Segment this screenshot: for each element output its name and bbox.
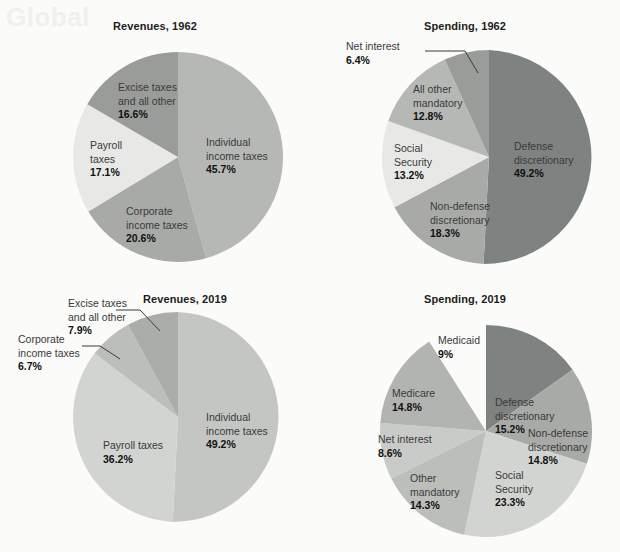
- pie-label-value: 36.2%: [103, 453, 133, 465]
- pie-label-value: 7.9%: [68, 324, 92, 336]
- pie-label-value: 49.2%: [206, 438, 236, 450]
- pie-label-name: SocialSecurity: [394, 142, 432, 169]
- pie-label-name: Medicare: [392, 387, 435, 401]
- chart-panel-revenues-2019: Revenues, 2019 Individualincome taxes 49…: [0, 276, 310, 552]
- pie-label-value: 16.6%: [118, 108, 148, 120]
- pie-label-value: 14.8%: [528, 454, 558, 466]
- pie-label-individual-income-taxes: Individualincome taxes 49.2%: [206, 411, 268, 452]
- pie-spending-2019: [310, 276, 620, 552]
- pie-label-net-interest: Net interest 6.4%: [346, 40, 400, 67]
- chart-panel-spending-2019: Spending, 2019 Defensediscretionary: [310, 276, 620, 552]
- pie-label-value: 6.4%: [346, 54, 370, 66]
- pie-label-name: Non-defensediscretionary: [528, 427, 588, 454]
- pie-label-value: 14.3%: [410, 499, 440, 511]
- pie-label-value: 14.8%: [392, 401, 422, 413]
- pie-label-name: Payrolltaxes: [90, 139, 122, 166]
- pie-label-excise-taxes-and-all-other: Excise taxesand all other 16.6%: [118, 81, 177, 122]
- chart-panel-spending-1962: Spending, 1962 Defensediscretionary 49.2…: [310, 0, 620, 276]
- charts-grid: Revenues, 1962 Individualincome taxes 45…: [0, 0, 620, 552]
- pie-label-corporate-income-taxes: Corporateincome taxes 20.6%: [126, 205, 188, 246]
- pie-label-name: Medicaid: [438, 334, 480, 348]
- pie-label-value: 12.8%: [413, 110, 443, 122]
- pie-label-medicaid: Medicaid 9%: [438, 334, 480, 361]
- pie-label-individual-income-taxes: Individualincome taxes 45.7%: [206, 136, 268, 177]
- pie-label-all-other-mandatory: All othermandatory 12.8%: [413, 83, 463, 124]
- pie-label-defense-discretionary: Defensediscretionary 49.2%: [514, 140, 574, 181]
- pie-label-net-interest: Net interest 8.6%: [378, 433, 432, 460]
- pie-label-value: 18.3%: [430, 227, 460, 239]
- pie-label-name: Defensediscretionary: [495, 396, 555, 423]
- pie-label-value: 8.6%: [378, 447, 402, 459]
- pie-label-corporate-income-taxes: Corporateincome taxes 6.7%: [18, 333, 80, 374]
- pie-label-social-security: SocialSecurity 13.2%: [394, 142, 432, 183]
- pie-label-social-security: SocialSecurity 23.3%: [495, 469, 533, 510]
- pie-label-name: Net interest: [346, 40, 400, 54]
- pie-label-name: Excise taxesand all other: [118, 81, 177, 108]
- pie-label-medicare: Medicare 14.8%: [392, 387, 435, 414]
- pie-label-non-defense-discretionary: Non-defensediscretionary 18.3%: [430, 200, 490, 241]
- pie-label-name: SocialSecurity: [495, 469, 533, 496]
- pie-label-name: Non-defensediscretionary: [430, 200, 490, 227]
- pie-label-name: Individualincome taxes: [206, 136, 268, 163]
- pie-label-other-mandatory: Othermandatory 14.3%: [410, 472, 460, 513]
- pie-label-non-defense-discretionary: Non-defensediscretionary 14.8%: [528, 427, 588, 468]
- pie-label-value: 13.2%: [394, 169, 424, 181]
- pie-label-value: 49.2%: [514, 167, 544, 179]
- pie-label-value: 45.7%: [206, 163, 236, 175]
- pie-label-value: 17.1%: [90, 166, 120, 178]
- pie-label-payroll-taxes: Payroll taxes 36.2%: [103, 439, 163, 466]
- pie-label-value: 6.7%: [18, 360, 42, 372]
- chart-panel-revenues-1962: Revenues, 1962 Individualincome taxes 45…: [0, 0, 310, 276]
- pie-label-name: Defensediscretionary: [514, 140, 574, 167]
- pie-label-name: Othermandatory: [410, 472, 460, 499]
- pie-label-name: Individualincome taxes: [206, 411, 268, 438]
- pie-label-excise-taxes-and-all-other: Excise taxesand all other 7.9%: [68, 297, 127, 338]
- pie-label-name: Payroll taxes: [103, 439, 163, 453]
- pie-label-value: 15.2%: [495, 423, 525, 435]
- pie-label-value: 23.3%: [495, 496, 525, 508]
- pie-label-name: All othermandatory: [413, 83, 463, 110]
- pie-label-value: 20.6%: [126, 232, 156, 244]
- pie-label-name: Net interest: [378, 433, 432, 447]
- pie-label-payroll-taxes: Payrolltaxes 17.1%: [90, 139, 122, 180]
- pie-label-name: Excise taxesand all other: [68, 297, 127, 324]
- pie-label-name: Corporateincome taxes: [126, 205, 188, 232]
- pie-label-value: 9%: [438, 348, 453, 360]
